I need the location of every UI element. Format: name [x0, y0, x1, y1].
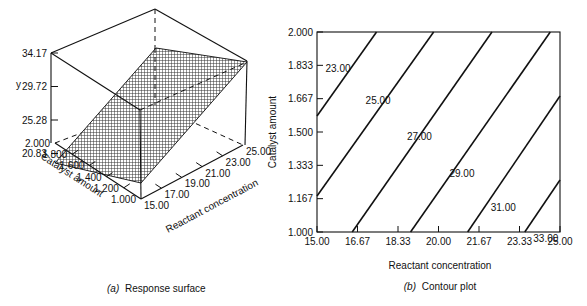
contour-x-tick-label: 16.67 [345, 236, 370, 247]
response-surface-panel: 34.1729.7225.2820.83 y 2.0001.8001.6001.… [16, 9, 271, 294]
contour-x-tick-label: 25.00 [547, 236, 572, 247]
contour-x-tick-label: 18.33 [385, 236, 410, 247]
catalyst-tick-label: 2.000 [25, 138, 50, 149]
contour-panel: 23.0025.0027.0029.0031.0033.00 15.0016.6… [267, 27, 573, 293]
contour-label-25.00: 25.00 [366, 95, 391, 106]
catalyst-tick-label: 1.000 [111, 194, 136, 205]
contour-label-27.00: 27.00 [407, 131, 432, 142]
figure: 34.1729.7225.2820.83 y 2.0001.8001.6001.… [0, 0, 587, 306]
reactant-tick-label: 19.00 [185, 178, 210, 189]
reactant-tick [217, 152, 223, 156]
contour-x-tick-label: 23.33 [507, 236, 532, 247]
contour-y-tick-label: 1.333 [288, 160, 313, 171]
caption-a: (a) Response surface [107, 283, 206, 294]
contour-label-23.00: 23.00 [326, 63, 351, 74]
contour-y-tick-label: 1.167 [288, 193, 313, 204]
catalyst-tick [124, 184, 130, 188]
z-tick-label: 34.17 [22, 48, 47, 59]
contour-label-29.00: 29.00 [449, 168, 474, 179]
z-axis-label: y [16, 79, 21, 90]
contour-x-axis-label: Reactant concentration [389, 260, 492, 271]
caption-b-prefix: (b) [404, 281, 416, 292]
contour-y-tick-label: 1.500 [288, 127, 313, 138]
contour-line-33.00 [525, 180, 560, 232]
reactant-tick [155, 184, 161, 188]
contour-label-31.00: 31.00 [491, 202, 516, 213]
contour-y-tick-label: 1.000 [288, 227, 313, 238]
contour-y-axis-label: Catalyst amount [267, 96, 278, 168]
box-edge [51, 9, 155, 53]
reactant-tick [176, 173, 182, 177]
box-edge [245, 61, 247, 145]
reactant-tick-label: 17.00 [164, 189, 189, 200]
reactant-axis-label-3d: Reactant concentration [164, 177, 260, 235]
z-tick-label: 25.28 [22, 115, 47, 126]
caption-a-prefix: (a) [107, 283, 119, 294]
reactant-tick-label: 15.00 [144, 200, 169, 211]
caption-b-text: Contour plot [422, 281, 477, 292]
reactant-tick-label: 21.00 [205, 168, 230, 179]
contour-y-tick-label: 2.000 [288, 27, 313, 38]
contour-x-tick-label: 20.00 [426, 236, 451, 247]
caption-a-text: Response surface [125, 283, 206, 294]
reactant-tick-label: 23.00 [226, 157, 251, 168]
reactant-tick [196, 163, 202, 167]
contour-line-25.00 [317, 32, 434, 196]
contour-x-tick-label: 21.67 [466, 236, 491, 247]
contour-plot-frame [317, 32, 560, 232]
contour-x-tick-label: 15.00 [304, 236, 329, 247]
z-tick-label: 29.72 [22, 81, 47, 92]
caption-b: (b) Contour plot [404, 281, 477, 292]
contour-y-tick-label: 1.667 [288, 93, 313, 104]
contour-y-tick-label: 1.833 [288, 60, 313, 71]
